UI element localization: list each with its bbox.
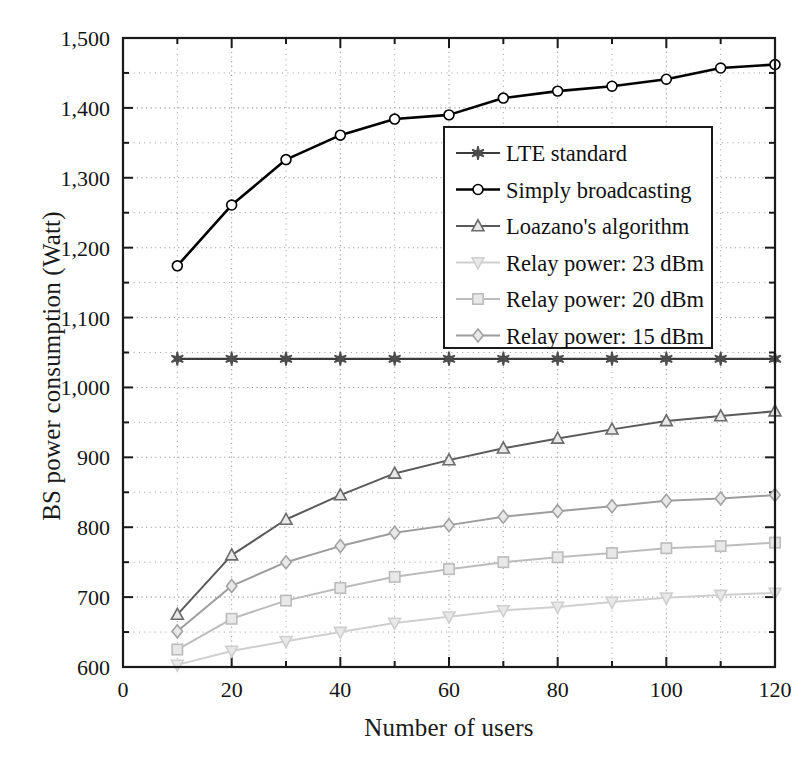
series-0 xyxy=(171,352,780,366)
data-point-diamond xyxy=(498,510,508,523)
data-point-square xyxy=(335,583,345,593)
data-point-circle xyxy=(444,110,454,120)
data-point-square xyxy=(552,552,562,562)
y-tick-label: 1,400 xyxy=(61,96,111,121)
y-tick-label: 900 xyxy=(77,445,110,470)
y-tick-label: 700 xyxy=(77,585,110,610)
data-point-circle xyxy=(661,74,671,84)
data-point-square xyxy=(226,614,236,624)
data-point-circle xyxy=(281,155,291,165)
data-point-square xyxy=(473,294,483,304)
legend-label: Simply broadcasting xyxy=(506,178,692,203)
legend-label: Relay power: 20 dBm xyxy=(506,287,705,312)
legend-label: Loazano's algorithm xyxy=(506,214,690,239)
data-point-diamond xyxy=(226,579,236,592)
plot-canvas: 6007008009001,0001,1001,2001,3001,4001,5… xyxy=(0,0,809,770)
x-tick-label: 60 xyxy=(438,677,460,702)
y-tick-label: 1,500 xyxy=(61,26,111,51)
legend-box[interactable]: LTE standardSimply broadcastingLoazano's… xyxy=(444,127,712,349)
series-line xyxy=(177,593,775,665)
data-point-circle xyxy=(390,114,400,124)
data-point-triangle-up xyxy=(226,549,238,560)
data-point-circle xyxy=(498,93,508,103)
data-point-diamond xyxy=(172,625,182,638)
data-point-diamond xyxy=(335,540,345,553)
data-point-circle xyxy=(607,81,617,91)
data-point-circle xyxy=(227,200,237,210)
data-point-diamond xyxy=(661,494,671,507)
data-point-diamond xyxy=(715,492,725,505)
data-point-diamond xyxy=(281,556,291,569)
legend-label: Relay power: 15 dBm xyxy=(506,324,705,349)
series-line xyxy=(177,495,775,631)
data-point-square xyxy=(281,595,291,605)
x-tick-label: 0 xyxy=(118,677,129,702)
x-tick-label: 100 xyxy=(650,677,683,702)
data-point-square xyxy=(498,557,508,567)
data-point-diamond xyxy=(389,526,399,539)
data-point-circle xyxy=(716,63,726,73)
x-tick-label: 120 xyxy=(759,677,792,702)
y-tick-label: 1,000 xyxy=(61,375,111,400)
y-tick-label: 1,300 xyxy=(61,166,111,191)
data-point-circle xyxy=(335,130,345,140)
series-3 xyxy=(171,588,781,671)
data-point-square xyxy=(172,644,182,654)
x-tick-label: 40 xyxy=(329,677,351,702)
data-point-diamond xyxy=(444,519,454,532)
y-tick-label: 600 xyxy=(77,655,110,680)
data-point-circle xyxy=(553,86,563,96)
data-point-square xyxy=(607,548,617,558)
series-line xyxy=(177,411,775,614)
series-5 xyxy=(172,489,780,638)
series-2 xyxy=(171,405,781,619)
y-tick-label: 1,200 xyxy=(61,236,111,261)
y-tick-label: 800 xyxy=(77,515,110,540)
legend-label: Relay power: 23 dBm xyxy=(506,251,705,276)
data-point-diamond xyxy=(552,505,562,518)
data-point-diamond xyxy=(607,500,617,513)
data-point-circle xyxy=(172,261,182,271)
data-point-square xyxy=(389,572,399,582)
x-tick-label: 80 xyxy=(547,677,569,702)
data-point-triangle-down xyxy=(171,660,183,671)
x-tick-label: 20 xyxy=(221,677,243,702)
data-point-square xyxy=(715,541,725,551)
y-tick-label: 1,100 xyxy=(61,306,111,331)
data-point-circle xyxy=(473,185,483,195)
legend-label: LTE standard xyxy=(506,141,627,166)
data-point-triangle-up xyxy=(280,513,292,524)
data-point-square xyxy=(661,543,671,553)
data-point-square xyxy=(444,564,454,574)
figure: BS power consumption (Watt) Number of us… xyxy=(0,0,809,770)
